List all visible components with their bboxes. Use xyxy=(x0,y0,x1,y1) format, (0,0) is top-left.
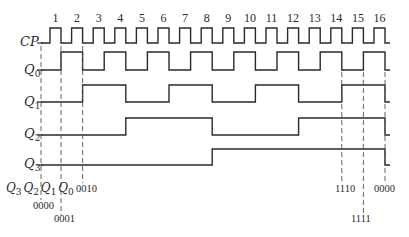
state-0001: 0001 xyxy=(54,213,75,224)
signal-label-cp: CP xyxy=(20,34,39,49)
pulse-number: 10 xyxy=(244,11,256,25)
state-0010: 0010 xyxy=(76,183,97,194)
waveform-cp xyxy=(41,28,390,43)
waveform-q1 xyxy=(41,85,390,102)
pulse-number: 12 xyxy=(287,11,299,25)
pulse-numbers: 12345678910111213141516 xyxy=(53,11,386,25)
pulse-number: 6 xyxy=(161,11,167,25)
pulse-number: 4 xyxy=(117,11,123,25)
waveform-q2 xyxy=(41,118,390,135)
pulse-number: 2 xyxy=(74,11,80,25)
pulse-number: 14 xyxy=(330,11,342,25)
pulse-number: 9 xyxy=(225,11,231,25)
pulse-number: 5 xyxy=(139,11,145,25)
pulse-number: 11 xyxy=(266,11,278,25)
pulse-number: 3 xyxy=(96,11,102,25)
state-0000-start: 0000 xyxy=(33,200,54,211)
pulse-number: 16 xyxy=(374,11,386,25)
state-header: Q3 Q2 Q1 Q0 xyxy=(6,181,74,198)
timing-diagram: 12345678910111213141516 CP Q0 Q1 Q2 Q3 Q… xyxy=(0,0,409,237)
state-1111: 1111 xyxy=(351,213,371,224)
pulse-number: 7 xyxy=(182,11,188,25)
waveform-q3 xyxy=(41,149,390,165)
waveform-q0 xyxy=(41,52,390,70)
pulse-number: 15 xyxy=(352,11,364,25)
state-1110: 1110 xyxy=(335,183,355,194)
waveforms xyxy=(41,28,390,165)
pulse-number: 1 xyxy=(53,11,59,25)
state-0000-end: 0000 xyxy=(374,183,395,194)
pulse-number: 8 xyxy=(204,11,210,25)
pulse-number: 13 xyxy=(309,11,321,25)
